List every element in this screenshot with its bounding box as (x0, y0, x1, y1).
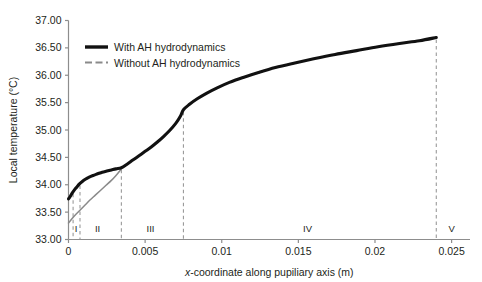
region-label-ii: II (95, 223, 100, 234)
y-axis-title: Local temperature (°C) (7, 77, 19, 183)
temperature-profile-chart: 33.0033.5034.0034.5035.0035.5036.0036.50… (0, 0, 482, 282)
x-axis-tick-label: 0.01 (212, 245, 233, 257)
y-axis-tick-label: 33.50 (35, 206, 61, 218)
region-label-iv: IV (303, 223, 313, 234)
y-axis-tick-label: 37.00 (35, 14, 61, 26)
legend-label-with-ah-hydrodynamics: With AH hydrodynamics (114, 41, 225, 53)
y-axis-tick-label: 36.00 (35, 69, 61, 81)
y-axis-tick-label: 33.00 (35, 233, 61, 245)
x-axis-tick-label: 0.005 (132, 245, 158, 257)
region-label-iii: III (147, 223, 155, 234)
y-axis-tick-label: 36.50 (35, 41, 61, 53)
region-label-i: I (75, 223, 78, 234)
x-axis-tick-label: 0.02 (365, 245, 386, 257)
y-axis-tick-label: 35.50 (35, 96, 61, 108)
x-axis-tick-label: 0 (66, 245, 72, 257)
x-axis-tick-label: 0.025 (438, 245, 464, 257)
y-axis-tick-label: 34.00 (35, 178, 61, 190)
chart-figure: 33.0033.5034.0034.5035.0035.5036.0036.50… (0, 0, 482, 282)
y-axis-tick-label: 35.00 (35, 124, 61, 136)
legend-label-without-ah-hydrodynamics: Without AH hydrodynamics (114, 57, 240, 69)
x-axis-tick-label: 0.015 (285, 245, 311, 257)
y-axis-tick-label: 34.50 (35, 151, 61, 163)
region-label-v: V (448, 223, 455, 234)
series-line-without-ah-hydrodynamics (69, 169, 122, 223)
x-axis-title: x-coordinate along pupiliary axis (m) (184, 266, 354, 278)
